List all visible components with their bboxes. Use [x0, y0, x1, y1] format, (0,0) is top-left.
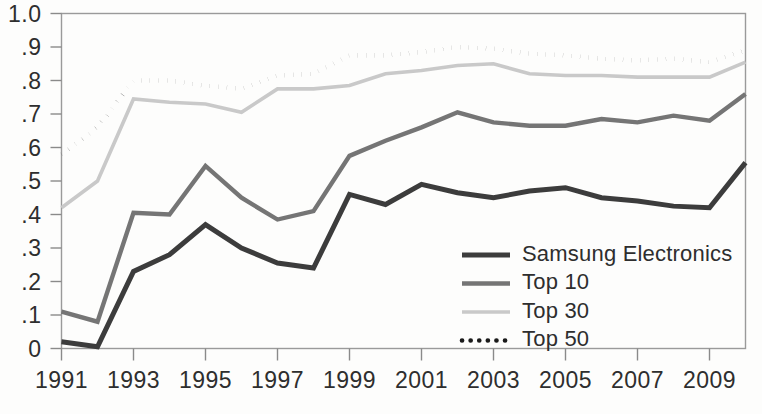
y-axis-tick-label: 1.0 — [8, 1, 41, 27]
legend-label: Top 30 — [522, 298, 589, 323]
x-axis-tick-label: 1991 — [35, 367, 88, 393]
y-axis-tick-label: .5 — [21, 168, 41, 194]
y-axis-tick-label: .2 — [21, 269, 41, 295]
legend-label: Top 10 — [522, 269, 589, 294]
y-axis-tick-label: .4 — [21, 202, 41, 228]
y-axis-tick-label: .6 — [21, 135, 41, 161]
y-axis-tick-label: 0 — [28, 336, 41, 362]
chart-page: 0.1.2.3.4.5.6.7.8.91.0 19911993199519971… — [0, 0, 762, 414]
x-axis-tick-label: 1993 — [107, 367, 160, 393]
x-axis-tick-label: 2005 — [539, 367, 592, 393]
x-axis-tick-label: 1997 — [251, 367, 304, 393]
line-chart: 0.1.2.3.4.5.6.7.8.91.0 19911993199519971… — [0, 0, 762, 414]
y-axis-tick-label: .7 — [21, 101, 41, 127]
x-axis-tick-label: 2007 — [611, 367, 664, 393]
x-axis-tick-label: 2009 — [683, 367, 736, 393]
y-axis-tick-label: .3 — [21, 235, 41, 261]
x-axis-tick-label: 1999 — [323, 367, 376, 393]
legend-label: Samsung Electronics — [522, 241, 732, 266]
legend-label: Top 50 — [522, 326, 589, 351]
x-axis-tick-label: 2003 — [467, 367, 520, 393]
x-axis-tick-label: 1995 — [179, 367, 232, 393]
chart-background — [0, 0, 762, 414]
y-axis-tick-label: .8 — [21, 68, 41, 94]
y-axis-tick-label: .1 — [21, 302, 41, 328]
x-axis-tick-label: 2001 — [395, 367, 448, 393]
y-axis-tick-label: .9 — [21, 34, 41, 60]
